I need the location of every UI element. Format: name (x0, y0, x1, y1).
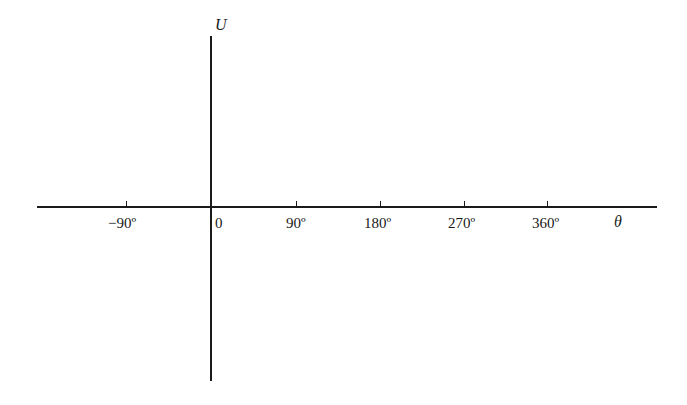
tick-90 (296, 201, 297, 207)
tick-label-180: 180º (364, 216, 391, 231)
y-axis-label: U (215, 17, 227, 33)
tick-270 (464, 201, 465, 207)
x-axis-line (37, 206, 657, 208)
x-axis-label: θ (614, 214, 622, 230)
tick-label-360: 360º (532, 216, 559, 231)
tick-neg90 (126, 201, 127, 207)
origin-label: 0 (215, 216, 223, 231)
tick-label-neg90: −90º (108, 216, 136, 231)
tick-180 (380, 201, 381, 207)
y-axis-line (210, 36, 212, 381)
tick-label-90: 90º (286, 216, 306, 231)
tick-label-270: 270º (448, 216, 475, 231)
tick-360 (547, 201, 548, 207)
